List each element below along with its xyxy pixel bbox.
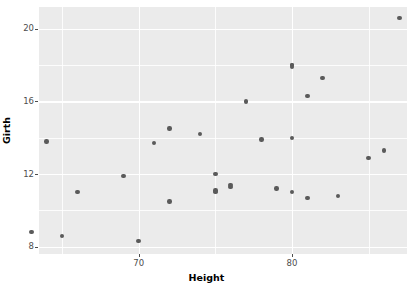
data-point (152, 141, 156, 145)
grid-major-vertical (292, 7, 293, 254)
data-point (305, 94, 309, 98)
data-point (60, 234, 64, 238)
data-point (290, 136, 294, 140)
data-point (213, 188, 217, 192)
data-point (121, 174, 125, 178)
grid-minor-horizontal (39, 210, 407, 211)
scatter-plot-figure: 20161287080 Girth Height (0, 0, 413, 292)
data-point (75, 190, 79, 194)
y-tick-label: 20 (4, 24, 34, 33)
data-point (397, 16, 401, 20)
grid-minor-horizontal (39, 65, 407, 66)
data-point (366, 156, 370, 160)
data-point (136, 239, 140, 243)
grid-major-horizontal (39, 29, 407, 30)
y-tick-mark (35, 247, 38, 248)
data-point (259, 137, 263, 141)
grid-minor-vertical (62, 7, 63, 254)
data-point (244, 99, 248, 103)
data-point (167, 199, 171, 203)
data-point (382, 148, 386, 152)
x-tick-label: 70 (119, 259, 159, 268)
grid-minor-vertical (215, 7, 216, 254)
grid-minor-horizontal (39, 138, 407, 139)
data-point (320, 76, 324, 80)
y-tick-mark (35, 174, 38, 175)
grid-minor-vertical (369, 7, 370, 254)
data-point (274, 186, 278, 190)
plot-panel (39, 7, 407, 254)
y-axis-title: Girth (1, 107, 12, 155)
data-point (29, 230, 33, 234)
x-tick-mark (292, 254, 293, 257)
data-point (167, 126, 171, 130)
data-point (305, 196, 309, 200)
x-tick-label: 80 (272, 259, 312, 268)
grid-major-vertical (139, 7, 140, 254)
data-point (213, 172, 217, 176)
data-point (290, 190, 294, 194)
grid-major-horizontal (39, 101, 407, 102)
y-tick-label: 12 (4, 170, 34, 179)
y-tick-mark (35, 29, 38, 30)
x-tick-mark (139, 254, 140, 257)
grid-major-horizontal (39, 247, 407, 248)
x-axis-title: Height (0, 272, 413, 283)
grid-major-horizontal (39, 174, 407, 175)
y-tick-label: 8 (4, 242, 34, 251)
data-point (228, 183, 232, 187)
data-point (44, 139, 48, 143)
y-tick-mark (35, 101, 38, 102)
data-point (198, 132, 202, 136)
data-point (336, 194, 340, 198)
y-tick-label: 16 (4, 97, 34, 106)
